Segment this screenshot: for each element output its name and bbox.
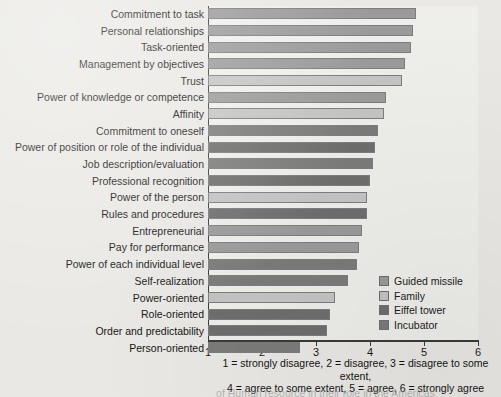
legend-swatch — [379, 305, 389, 315]
bar-category-label: Role-oriented — [0, 309, 204, 320]
bar-track — [208, 208, 367, 219]
bar-row: Task-oriented — [0, 39, 501, 56]
bar — [208, 175, 370, 186]
bar-track — [208, 292, 335, 303]
bar-track — [208, 75, 402, 86]
bar — [208, 242, 359, 253]
bar-track — [208, 175, 370, 186]
bar-track — [208, 25, 413, 36]
bar-category-label: Entrepreneurial — [0, 226, 204, 237]
bar-row: Affinity — [0, 106, 501, 123]
bar — [208, 192, 367, 203]
legend-label: Incubator — [394, 319, 438, 331]
legend: Guided missileFamilyEiffel towerIncubato… — [376, 272, 467, 337]
bar-track — [208, 225, 362, 236]
bar — [208, 42, 411, 53]
legend-swatch — [379, 291, 389, 301]
bar — [208, 125, 378, 136]
bar-track — [208, 108, 384, 119]
bar — [208, 259, 357, 270]
bar-track — [208, 309, 330, 320]
legend-label: Eiffel tower — [394, 304, 446, 316]
bar-row: Commitment to oneself — [0, 123, 501, 140]
legend-item: Family — [379, 290, 463, 302]
cut-off-footer-text: of Human resource in their role in the A… — [150, 387, 501, 397]
bar — [208, 158, 373, 169]
bar — [208, 309, 330, 320]
legend-label: Guided missile — [394, 275, 463, 287]
bar-track — [208, 275, 348, 286]
bar-category-label: Professional recognition — [0, 176, 204, 187]
bar-category-label: Person-oriented — [0, 343, 204, 354]
bar-row: Power of knowledge or competence — [0, 89, 501, 106]
bar-category-label: Self-realization — [0, 276, 204, 287]
bar-track — [208, 342, 300, 353]
caption-line-1: 1 = strongly disagree, 2 = disagree, 3 =… — [223, 357, 489, 382]
bar-track — [208, 242, 359, 253]
bar — [208, 342, 300, 353]
bar — [208, 58, 405, 69]
bar-category-label: Personal relationships — [0, 26, 204, 37]
bar-category-label: Pay for performance — [0, 242, 204, 253]
bar-category-label: Affinity — [0, 109, 204, 120]
legend-swatch — [379, 276, 389, 286]
bar-category-label: Commitment to oneself — [0, 126, 204, 137]
bar-track — [208, 58, 405, 69]
bar-category-label: Order and predictability — [0, 326, 204, 337]
bar-track — [208, 125, 378, 136]
bar — [208, 325, 327, 336]
bar-category-label: Commitment to task — [0, 9, 204, 20]
bar-row: Trust — [0, 73, 501, 90]
legend-item: Eiffel tower — [379, 304, 463, 316]
bar-category-label: Rules and procedures — [0, 209, 204, 220]
bar-row: Power of the person — [0, 190, 501, 207]
bar-row: Job description/evaluation — [0, 156, 501, 173]
bar-category-label: Power of each individual level — [0, 259, 204, 270]
bar — [208, 108, 384, 119]
bar-category-label: Power of the person — [0, 192, 204, 203]
bar-category-label: Management by objectives — [0, 59, 204, 70]
bar — [208, 25, 413, 36]
legend-label: Family — [394, 290, 425, 302]
bar-row: Power of position or role of the individ… — [0, 140, 501, 157]
bar-track — [208, 325, 327, 336]
bar-row: Entrepreneurial — [0, 223, 501, 240]
bar-row: Management by objectives — [0, 56, 501, 73]
bar-track — [208, 158, 373, 169]
bar-category-label: Power of position or role of the individ… — [0, 142, 204, 153]
bar — [208, 292, 335, 303]
bar-track — [208, 92, 386, 103]
bar — [208, 275, 348, 286]
bar-track — [208, 142, 375, 153]
bar-track — [208, 8, 416, 19]
bar-row: Personal relationships — [0, 23, 501, 40]
legend-item: Guided missile — [379, 275, 463, 287]
bar-track — [208, 192, 367, 203]
bar-row: Pay for performance — [0, 240, 501, 257]
bar-category-label: Trust — [0, 76, 204, 87]
bar — [208, 208, 367, 219]
bar-category-label: Power of knowledge or competence — [0, 92, 204, 103]
legend-item: Incubator — [379, 319, 463, 331]
bar-chart: 123456 Commitment to taskPersonal relati… — [0, 0, 501, 397]
bar — [208, 92, 386, 103]
bar-track — [208, 259, 357, 270]
bar — [208, 8, 416, 19]
bar — [208, 142, 375, 153]
bar-row: Person-oriented — [0, 340, 501, 357]
legend-swatch — [379, 320, 389, 330]
bar-category-label: Job description/evaluation — [0, 159, 204, 170]
bar-row: Rules and procedures — [0, 206, 501, 223]
bar — [208, 225, 362, 236]
bar-row: Power of each individual level — [0, 256, 501, 273]
bar-category-label: Power-oriented — [0, 293, 204, 304]
bar — [208, 75, 402, 86]
bar-row: Professional recognition — [0, 173, 501, 190]
bar-row: Commitment to task — [0, 6, 501, 23]
bar-track — [208, 42, 411, 53]
bar-category-label: Task-oriented — [0, 42, 204, 53]
